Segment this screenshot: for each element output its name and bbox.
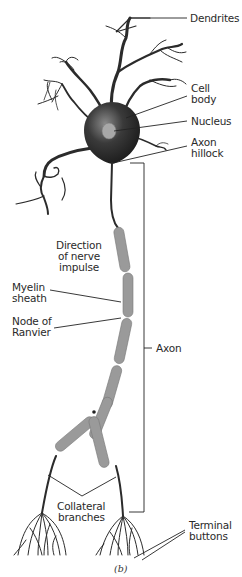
label-axon-hillock: hillock [191, 147, 224, 159]
label-cell-body: body [191, 93, 216, 105]
label-nucleus: Nucleus [191, 115, 231, 127]
leader-lines [48, 18, 187, 560]
cell-body [84, 102, 140, 164]
axon-drawing [42, 163, 133, 516]
label-terminal-buttons: buttons [189, 530, 228, 542]
figure-caption: (b) [114, 563, 128, 574]
label-node-of-ranvier: Ranvier [12, 326, 52, 338]
label-dendrites: Dendrites [190, 12, 239, 24]
myelin-segment [123, 273, 133, 317]
label-collateral-branches: branches [58, 511, 105, 523]
label-axon: Axon [156, 342, 181, 354]
nucleus [102, 123, 116, 139]
axon-bracket [129, 163, 144, 512]
neuron-diagram: Dendrites Cell body Nucleus Axon hillock… [0, 0, 242, 577]
myelin-segment [88, 416, 110, 469]
myelin-segment [113, 317, 132, 364]
myelin-segment [113, 226, 131, 272]
label-direction: impulse [59, 261, 99, 273]
label-myelin-sheath: sheath [12, 292, 47, 304]
